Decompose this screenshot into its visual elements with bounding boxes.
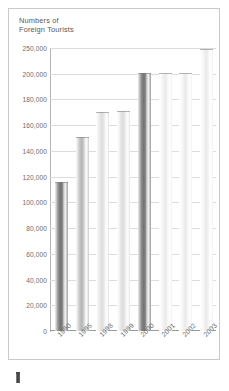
bar-1995 — [76, 137, 89, 331]
y-tick-label: 60,000 — [26, 250, 47, 257]
plot-area — [50, 48, 216, 331]
bar-2003 — [200, 49, 213, 331]
bar-body — [159, 73, 172, 331]
bar-cap — [76, 137, 89, 138]
bar-cap — [159, 73, 172, 74]
y-tick-label: 140,000 — [22, 147, 47, 154]
bar-cap — [55, 182, 68, 183]
bar-cap — [138, 73, 151, 74]
y-tick-label: 120,000 — [22, 173, 47, 180]
bar-cap — [179, 73, 192, 74]
y-tick-label: 180,000 — [22, 96, 47, 103]
bar-body — [117, 111, 130, 331]
bar-2002 — [179, 73, 192, 331]
y-tick-label: 20,000 — [26, 302, 47, 309]
chart-title: Numbers of Foreign Tourists — [19, 16, 74, 34]
y-tick-label: 160,000 — [22, 122, 47, 129]
footnote-marker-icon — [16, 374, 20, 383]
bar-1999 — [117, 111, 130, 331]
chart-panel: Numbers of Foreign Tourists 020,00040,00… — [8, 8, 220, 360]
bar-body — [96, 112, 109, 331]
bar-body — [200, 49, 213, 331]
bar-body — [179, 73, 192, 331]
chart-page: Numbers of Foreign Tourists 020,00040,00… — [0, 0, 229, 391]
bar-cap — [117, 111, 130, 112]
bar-series — [50, 48, 216, 331]
y-tick-label: 200,000 — [22, 70, 47, 77]
y-tick-label: 250,000 — [22, 45, 47, 52]
bar-cap — [200, 49, 213, 50]
bar-2000 — [138, 73, 151, 331]
bar-body — [76, 137, 89, 331]
bar-1998 — [96, 112, 109, 331]
bar-body — [55, 182, 68, 331]
bar-2001 — [159, 73, 172, 331]
x-axis-tick-labels: 19901995199819992000200120022003 — [50, 333, 216, 367]
bar-body — [138, 73, 151, 331]
bar-cap — [96, 112, 109, 113]
y-tick-label: 80,000 — [26, 225, 47, 232]
bar-1990 — [55, 182, 68, 331]
y-tick-label: 100,000 — [22, 199, 47, 206]
y-tick-label: 40,000 — [26, 276, 47, 283]
y-tick-label: 0 — [43, 328, 47, 335]
y-axis-tick-labels: 020,00040,00060,00080,000100,000120,0001… — [9, 48, 47, 331]
